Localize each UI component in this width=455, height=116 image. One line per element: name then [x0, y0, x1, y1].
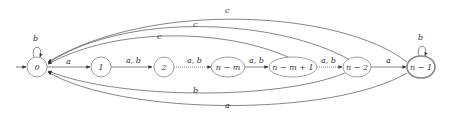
state-1: 1	[91, 57, 111, 77]
state-0: 0	[27, 57, 47, 77]
state-n-2: n − 2	[343, 57, 371, 77]
edge-n-1-0-c	[48, 19, 407, 62]
edge-label-a-back: a	[225, 101, 230, 110]
edge-0-0-loop	[33, 47, 40, 57]
edge-label-n-2-n-1: a	[386, 56, 391, 65]
state-label-n-m: n − m	[216, 63, 241, 72]
state-label-n-m+1: n − m + 1	[272, 63, 313, 72]
state-label-2: 2	[160, 63, 166, 72]
state-label-0: 0	[34, 63, 39, 72]
edge-label-loop-n-1: b	[418, 33, 423, 42]
edge-label-c-low: c	[157, 32, 162, 41]
state-label-n-1: n − 1	[410, 63, 432, 72]
edge-n-1-loop	[418, 46, 425, 56]
state-n-m: n − m	[211, 57, 245, 77]
edge-label-b-back: b	[193, 86, 198, 95]
edge-label-0-1: a	[66, 57, 71, 66]
state-n-1-accepting: n − 1	[407, 56, 435, 78]
edge-label-n-m-n-m+1: a, b	[249, 56, 264, 65]
edge-label-c-top: c	[225, 6, 230, 15]
edge-label-loop-0: b	[33, 34, 38, 43]
edge-label-1-2: a, b	[126, 56, 141, 65]
state-2: 2	[154, 57, 174, 77]
state-n-m+1: n − m + 1	[269, 57, 317, 77]
edge-label-c-mid: c	[193, 20, 198, 29]
automaton-diagram: b a a, b a, b a, b a, b a b c c c b a 0 …	[0, 0, 455, 116]
state-label-n-2: n − 2	[346, 63, 368, 72]
state-label-1: 1	[98, 63, 103, 72]
edge-label-n-m+1-n-2: a, b	[321, 56, 336, 65]
edge-label-2-n-m: a, b	[187, 56, 202, 65]
